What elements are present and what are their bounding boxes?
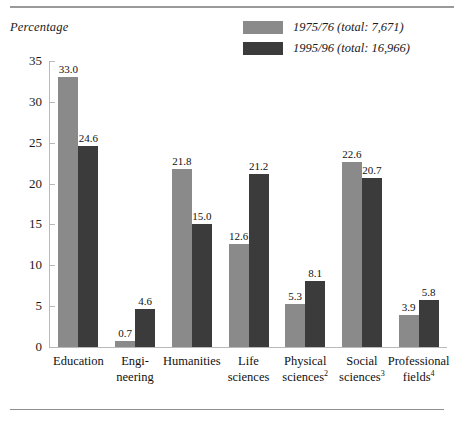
- y-axis-tick: [49, 347, 55, 348]
- bar: [58, 77, 78, 347]
- bar-value-label: 4.6: [129, 295, 161, 307]
- bar-value-label: 21.8: [166, 155, 198, 167]
- bar-value-label: 21.2: [243, 160, 275, 172]
- x-axis-category-label: Professionalfields4: [386, 353, 451, 385]
- y-axis-tick-label: 15: [2, 216, 42, 232]
- bar: [419, 300, 439, 347]
- bar-value-label: 20.7: [356, 164, 388, 176]
- y-axis-tick-label: 25: [2, 135, 42, 151]
- x-axis-category-label: Physicalsciences2: [273, 353, 338, 385]
- bar: [172, 169, 192, 347]
- x-axis-category-label: Socialsciences3: [330, 353, 395, 385]
- x-axis-baseline: [49, 347, 447, 348]
- y-axis-tick-label: 10: [2, 257, 42, 273]
- y-axis-tick-label: 30: [2, 94, 42, 110]
- x-axis-category-label: Education: [46, 353, 111, 369]
- y-axis-tick: [49, 224, 55, 225]
- bar-value-label: 24.6: [72, 132, 104, 144]
- bar: [399, 315, 419, 347]
- bar: [305, 281, 325, 347]
- bar-value-label: 15.0: [186, 210, 218, 222]
- bar: [192, 224, 212, 347]
- bar-value-label: 33.0: [52, 63, 84, 75]
- y-axis-line: [49, 61, 50, 348]
- y-axis-tick: [49, 184, 55, 185]
- bar-chart-plot: 0510152025303533.024.6Education0.74.6Eng…: [0, 0, 464, 424]
- y-axis-tick: [49, 265, 55, 266]
- x-axis-category-label: Engi-neering: [103, 353, 168, 385]
- bar: [135, 309, 155, 347]
- y-axis-tick-label: 20: [2, 176, 42, 192]
- bar: [115, 341, 135, 347]
- chart-page: Percentage 1975/76 (total: 7,671) 1995/9…: [0, 0, 464, 424]
- y-axis-tick-label: 5: [2, 298, 42, 314]
- bar: [285, 304, 305, 347]
- bar-value-label: 5.8: [413, 286, 445, 298]
- y-axis-tick-label: 35: [2, 53, 42, 69]
- bar: [229, 244, 249, 347]
- x-axis-category-label: Lifesciences: [216, 353, 281, 385]
- bar: [249, 174, 269, 347]
- y-axis-tick: [49, 102, 55, 103]
- y-axis-tick: [49, 143, 55, 144]
- y-axis-tick: [49, 61, 55, 62]
- bar: [342, 162, 362, 347]
- y-axis-tick-label: 0: [2, 339, 42, 355]
- y-axis-tick: [49, 306, 55, 307]
- bar: [78, 146, 98, 347]
- bar: [362, 178, 382, 347]
- bottom-divider-rule: [10, 409, 444, 410]
- x-axis-category-label: Humanities: [159, 353, 224, 369]
- bar-value-label: 8.1: [299, 267, 331, 279]
- bar-value-label: 22.6: [336, 148, 368, 160]
